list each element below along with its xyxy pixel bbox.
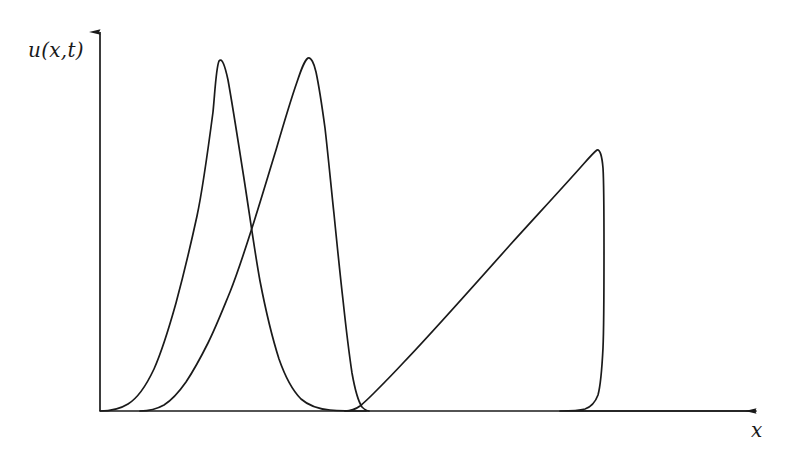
wave-steepening-figure: u(x,t) x xyxy=(0,0,801,453)
axes-group xyxy=(100,32,756,411)
curve-shock-profile xyxy=(345,150,756,411)
curve-intermediate-profile xyxy=(140,58,369,411)
plot-canvas xyxy=(0,0,801,453)
x-axis-label: x xyxy=(751,418,762,442)
curve-initial-profile xyxy=(100,60,366,411)
curves-group xyxy=(100,58,756,411)
y-axis-label: u(x,t) xyxy=(28,38,84,62)
